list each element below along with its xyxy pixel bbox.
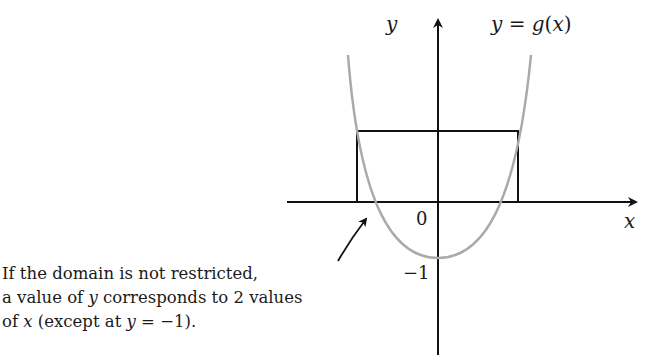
fn-eq: = (502, 12, 531, 36)
a2v: y (88, 288, 97, 307)
annotation-line-1: If the domain is not restricted, (2, 262, 302, 286)
a2a: a value of (2, 288, 88, 307)
annotation-line-3: of x (except at y = −1). (2, 310, 302, 334)
a2b: corresponds to 2 values (98, 288, 303, 307)
fn-lhs: y (491, 12, 502, 36)
fn-name: g (532, 12, 545, 36)
a3a: of (2, 312, 23, 331)
y-axis-label: y (386, 12, 397, 36)
parabola-curve (348, 55, 531, 258)
function-label: y = g(x) (491, 12, 572, 36)
vertex-label: −1 (403, 262, 430, 283)
annotation-text: If the domain is not restricted, a value… (2, 262, 302, 334)
a3v: x (23, 312, 32, 331)
diagram: y y = g(x) x 0 −1 If the domain is not r… (0, 0, 669, 359)
origin-label: 0 (416, 208, 427, 229)
annotation-line-2: a value of y corresponds to 2 values (2, 286, 302, 310)
annotation-arrow (338, 219, 366, 261)
fn-arg: x (552, 12, 563, 36)
x-axis-label: x (624, 209, 635, 233)
a3b: (except at (33, 312, 127, 331)
fn-close: ) (564, 12, 572, 36)
a3v2: y (127, 312, 136, 331)
a3c: = −1). (136, 312, 196, 331)
